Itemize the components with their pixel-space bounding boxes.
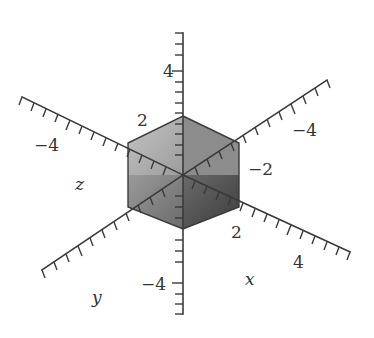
tick-label-upper-left-neg4: −4 [34, 135, 59, 155]
cube-face-right [183, 175, 239, 229]
tick-label-x-4: 4 [293, 252, 304, 272]
tick-label-upper-right-neg4: −4 [292, 120, 317, 140]
tick-label-vertical-4: 4 [163, 61, 174, 81]
plot-svg: 4 −4 2 −4 −2 −4 2 4 z y x [0, 0, 374, 338]
tick-label-upper-left-2: 2 [137, 110, 148, 130]
cube-face-top-right [183, 116, 239, 175]
3d-plot-canvas: 4 −4 2 −4 −2 −4 2 4 z y x [0, 0, 374, 338]
cube-face-left [128, 175, 183, 229]
axis-label-z: z [74, 174, 85, 194]
tick-label-vertical-neg4: −4 [141, 274, 166, 294]
tick-label-upper-right-neg2: −2 [248, 159, 273, 179]
axis-label-y: y [91, 287, 102, 307]
y-axis [42, 175, 183, 278]
tick-label-x-2: 2 [231, 222, 242, 242]
axis-label-x: x [245, 269, 255, 289]
